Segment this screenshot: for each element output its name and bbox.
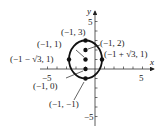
point-left bbox=[67, 57, 71, 61]
label-bottom: (−1, −1) bbox=[49, 99, 79, 109]
label-center: (−1, 1) bbox=[37, 39, 62, 49]
point-focus-up bbox=[83, 48, 87, 52]
label-focus-down: (−1, 0) bbox=[33, 81, 58, 91]
label-left: (−1 − √3, 1) bbox=[10, 54, 54, 64]
label-focus-up: (−1, 2) bbox=[100, 38, 125, 48]
label-top: (−1, 3) bbox=[61, 27, 86, 37]
y-tick-pos5: 5 bbox=[88, 17, 93, 27]
ellipse-graph: y x −5 5 5 −5 (−1, 3) (−1, 1) (−1 − √3, … bbox=[0, 0, 167, 138]
point-focus-down bbox=[83, 67, 87, 71]
x-tick-pos5: 5 bbox=[139, 73, 144, 83]
point-top bbox=[83, 38, 87, 42]
y-axis-label: y bbox=[86, 6, 91, 16]
data-points bbox=[67, 38, 104, 80]
point-bottom bbox=[83, 76, 87, 80]
x-axis-label: x bbox=[149, 57, 154, 67]
label-right: (−1 + √3, 1) bbox=[104, 49, 148, 59]
point-center bbox=[83, 57, 87, 61]
y-tick-neg5: −5 bbox=[84, 112, 94, 122]
